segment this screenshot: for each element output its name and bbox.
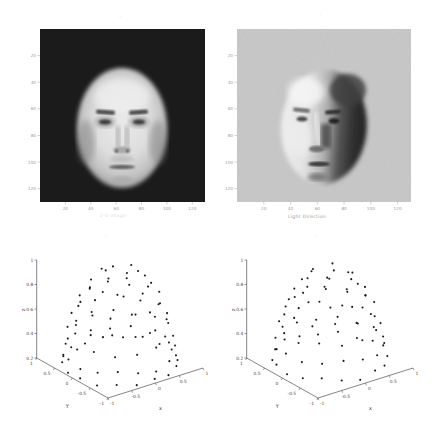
y-tick-label: -0.5	[78, 391, 87, 396]
scatter-point	[171, 348, 173, 350]
forehead-highlight	[94, 79, 150, 113]
scatter-point	[158, 303, 160, 305]
y-tick-label: 0.5	[44, 371, 51, 376]
x-tick-label: 1	[206, 371, 209, 376]
panel-title-mark: '	[319, 13, 320, 18]
scatter-point	[318, 342, 320, 344]
scatter-point	[321, 363, 323, 365]
y-axis-line	[37, 358, 108, 398]
scatter-point	[107, 277, 109, 279]
y-tick	[89, 388, 90, 390]
y-tick	[299, 388, 300, 390]
y-tick-label: 40	[31, 80, 37, 85]
scatter-point	[155, 347, 157, 349]
scatter-point	[122, 336, 124, 338]
scatter-point	[137, 270, 139, 272]
y-tick-label: -1	[100, 401, 105, 406]
scatter-point	[275, 364, 277, 366]
scatter-point	[112, 265, 114, 267]
scatter-point	[376, 354, 378, 356]
y-tick-label: 100	[28, 160, 36, 165]
y-tick	[53, 368, 54, 370]
scatter-point	[311, 325, 313, 327]
z-tick-label: 0.4	[26, 331, 33, 336]
cheek-highlight	[288, 120, 312, 156]
scatter-point	[301, 278, 303, 280]
x-tick-label: 0.5	[390, 379, 397, 384]
z-tick-label: 1	[240, 258, 243, 263]
x-tick-label: 1	[416, 371, 419, 376]
matlab-figure: ' 2040608010012020406080100120 2-D image	[0, 0, 437, 435]
scatter-point	[61, 361, 63, 363]
scatter-point	[374, 315, 376, 317]
scatter-point	[172, 335, 174, 337]
y-axis-label: Y	[65, 403, 70, 409]
scatter-point	[310, 270, 312, 272]
scatter-point	[167, 322, 169, 324]
scatter-point	[350, 278, 352, 280]
panel-title-mark: '	[119, 15, 120, 20]
nostril-left	[115, 149, 118, 152]
scatter-point	[283, 332, 285, 334]
scatter-point	[164, 335, 166, 337]
scatter-point	[297, 342, 299, 344]
z-tick-label: 0.4	[236, 331, 243, 336]
x-tick-label: 80	[139, 206, 145, 211]
z-axis-label: z	[20, 308, 26, 311]
y-tick-label: -0.5	[288, 391, 297, 396]
scatter-point	[79, 368, 81, 370]
scatter-point	[274, 337, 276, 339]
scatter-point	[321, 377, 323, 379]
scatter-point	[89, 288, 91, 290]
scatter-point	[333, 269, 335, 271]
scatter-point	[341, 305, 343, 307]
scatter-point	[285, 305, 287, 307]
x-tick-label: -1	[110, 401, 115, 406]
scatter-point	[318, 301, 320, 303]
scatter-point	[137, 372, 139, 374]
y-tick	[107, 398, 108, 400]
scatter-point	[136, 384, 138, 386]
scatter-point	[374, 370, 376, 372]
scatter-point	[176, 359, 178, 361]
scatter-point	[361, 306, 363, 308]
x-tick	[342, 391, 343, 393]
scatter-point	[154, 329, 156, 331]
scatter-point	[351, 272, 353, 274]
z-tick-label: 0.6	[236, 307, 243, 312]
scatter-point	[136, 354, 138, 356]
x-tick-label: 20	[63, 206, 69, 211]
philtrum-shadow	[110, 156, 134, 163]
y-tick-label: 1	[240, 361, 243, 366]
y-tick-label: 60	[31, 106, 37, 111]
y-tick-label: 120	[28, 186, 36, 191]
scatter-point	[362, 358, 364, 360]
scatter-point	[373, 326, 375, 328]
z-tick-label: 1	[30, 258, 33, 263]
scatter-point	[154, 378, 156, 380]
scatter-point	[288, 298, 290, 300]
scatter-point	[123, 295, 125, 297]
scatter-point	[102, 336, 104, 338]
scatter-point	[79, 377, 81, 379]
scatter-point	[111, 334, 113, 336]
y-tick-label: 0	[66, 381, 69, 386]
scatter-point	[294, 296, 296, 298]
scatter-point	[298, 335, 300, 337]
x-tick	[318, 398, 319, 400]
x-tick	[203, 368, 204, 370]
scatter-point	[97, 372, 99, 374]
scatter-point	[93, 351, 95, 353]
scatter-point	[126, 272, 128, 274]
scatter-point	[90, 329, 92, 331]
scatter-point	[283, 313, 285, 315]
eye-right	[329, 118, 340, 124]
scatter-point	[67, 338, 69, 340]
scatter-point	[382, 335, 384, 337]
nose-shadow-right	[125, 126, 129, 148]
y-tick	[36, 358, 37, 360]
scatter-point	[346, 288, 348, 290]
scatter-point	[296, 321, 298, 323]
scatter-point	[293, 317, 295, 319]
scatter-point	[77, 305, 79, 307]
